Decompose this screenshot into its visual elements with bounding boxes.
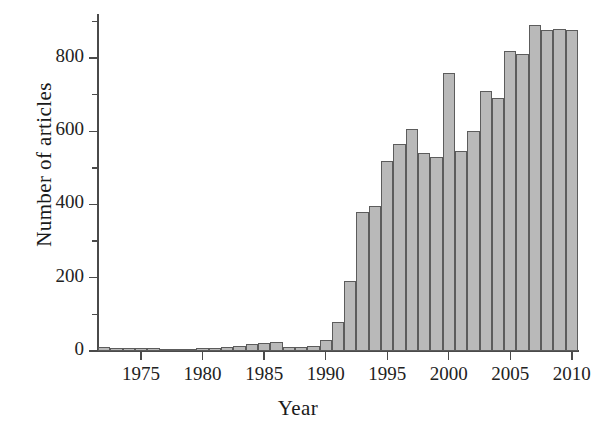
bar-1975: [135, 348, 147, 351]
bar-1996: [393, 144, 405, 351]
bar-1988: [295, 347, 307, 351]
bar-1984: [246, 344, 258, 351]
y-tick-600: [89, 131, 98, 132]
y-tick-0: [89, 350, 98, 351]
bar-2010: [566, 30, 578, 351]
bar-1991: [332, 322, 344, 351]
x-tick-1990: [325, 351, 326, 360]
x-tick-label-1995: 1995: [357, 363, 417, 385]
x-tick-1995: [387, 351, 388, 360]
bar-1973: [110, 348, 122, 351]
bar-chart-figure: Number of articles 0200400600800 1975198…: [0, 0, 596, 431]
bar-2007: [529, 25, 541, 351]
bar-1978: [172, 349, 184, 351]
bar-1983: [233, 346, 245, 351]
bar-2002: [467, 131, 479, 351]
bar-1992: [344, 281, 356, 351]
x-tick-2010: [571, 351, 572, 360]
bar-1980: [196, 348, 208, 351]
bar-2006: [516, 54, 528, 351]
bar-2009: [553, 29, 565, 351]
bar-2003: [480, 91, 492, 351]
bar-1972: [98, 347, 110, 351]
x-tick-label-1985: 1985: [234, 363, 294, 385]
y-tick-label-200: 200: [0, 265, 84, 287]
bar-2001: [455, 151, 467, 351]
bar-1995: [381, 161, 393, 351]
x-tick-2000: [448, 351, 449, 360]
bar-1986: [270, 342, 282, 351]
bar-1987: [283, 347, 295, 351]
bar-1981: [209, 348, 221, 351]
y-tick-400: [89, 204, 98, 205]
x-tick-1980: [202, 351, 203, 360]
x-tick-1985: [263, 351, 264, 360]
bar-1974: [123, 348, 135, 351]
x-tick-label-1975: 1975: [111, 363, 171, 385]
plot-area: [98, 14, 578, 351]
y-tick-label-0: 0: [0, 338, 84, 360]
y-tick-200: [89, 277, 98, 278]
x-axis-title: Year: [0, 396, 596, 421]
x-tick-label-2010: 2010: [542, 363, 596, 385]
bar-1976: [147, 348, 159, 351]
y-tick-label-800: 800: [0, 45, 84, 67]
x-tick-label-1990: 1990: [296, 363, 356, 385]
bar-1979: [184, 349, 196, 351]
bar-1982: [221, 347, 233, 351]
y-tick-label-400: 400: [0, 191, 84, 213]
x-tick-label-2005: 2005: [480, 363, 540, 385]
x-tick-label-1980: 1980: [173, 363, 233, 385]
y-tick-800: [89, 57, 98, 58]
bar-1999: [430, 157, 442, 351]
bar-1997: [406, 129, 418, 351]
bar-1977: [160, 349, 172, 351]
bar-series: [98, 14, 578, 351]
x-tick-1975: [140, 351, 141, 360]
bar-1990: [320, 340, 332, 351]
bar-2000: [443, 73, 455, 351]
bar-1985: [258, 343, 270, 351]
bar-2004: [492, 98, 504, 351]
bar-2005: [504, 51, 516, 351]
bar-1993: [356, 212, 368, 351]
bar-1994: [369, 206, 381, 351]
y-axis-title: Number of articles: [32, 35, 57, 295]
y-tick-label-600: 600: [0, 118, 84, 140]
x-tick-label-2000: 2000: [419, 363, 479, 385]
bar-1998: [418, 153, 430, 351]
bar-2008: [541, 30, 553, 351]
bar-1989: [307, 346, 319, 351]
x-tick-2005: [510, 351, 511, 360]
